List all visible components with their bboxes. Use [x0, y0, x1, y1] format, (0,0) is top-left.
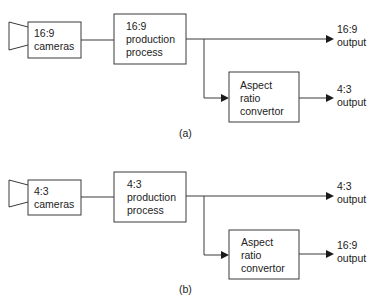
production-label-ratio: 4:3: [127, 178, 142, 190]
diagram-canvas: 16:9 cameras 16:9 production process 16:…: [0, 0, 379, 299]
converter-label-line2: ratio: [240, 92, 261, 104]
main-output-label-name: output: [337, 193, 366, 205]
converted-output-arrow-icon: [326, 250, 334, 258]
main-output-label-ratio: 4:3: [337, 180, 352, 192]
main-output-arrow-icon: [326, 192, 334, 200]
panel-caption: (b): [179, 283, 192, 295]
camera-label-ratio: 16:9: [34, 27, 55, 39]
branch-connector: [204, 196, 221, 255]
converter-label-line1: Aspect: [241, 236, 273, 248]
converted-output-arrow-icon: [326, 94, 334, 102]
converted-output-label-ratio: 16:9: [337, 239, 358, 251]
panel-caption: (a): [179, 127, 192, 139]
converter-label-line3: convertor: [241, 262, 285, 274]
converter-label-line1: Aspect: [240, 79, 272, 91]
production-label-line2: production: [126, 33, 175, 45]
camera-lens-icon: [9, 180, 28, 207]
production-label-ratio: 16:9: [126, 20, 147, 32]
camera-label-name: cameras: [34, 198, 74, 210]
panel-b: 4:3 cameras 4:3 production process 4:3 o…: [9, 172, 366, 295]
branch-arrow-icon: [221, 94, 229, 102]
main-output-label-ratio: 16:9: [337, 23, 358, 35]
production-label-line3: process: [126, 46, 163, 58]
converted-output-label-name: output: [337, 96, 366, 108]
production-label-line3: process: [127, 204, 164, 216]
panel-a: 16:9 cameras 16:9 production process 16:…: [9, 14, 366, 139]
production-label-line2: production: [127, 191, 176, 203]
converted-output-label-name: output: [337, 252, 366, 264]
converted-output-label-ratio: 4:3: [337, 83, 352, 95]
camera-label-name: cameras: [34, 40, 74, 52]
camera-label-ratio: 4:3: [34, 185, 49, 197]
branch-connector: [204, 39, 221, 98]
branch-arrow-icon: [221, 251, 229, 259]
main-output-arrow-icon: [326, 35, 334, 43]
camera-lens-icon: [9, 22, 28, 50]
main-output-label-name: output: [337, 36, 366, 48]
converter-label-line2: ratio: [241, 249, 262, 261]
converter-label-line3: convertor: [240, 105, 284, 117]
